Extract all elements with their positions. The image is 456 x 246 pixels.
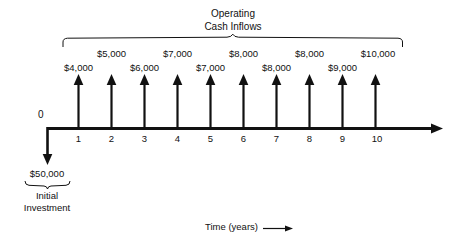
x-axis-label: Time (years) [205, 221, 258, 232]
initial-investment-brace [25, 181, 70, 189]
cash-inflow-arrow-year-8 [305, 74, 315, 128]
cash-inflow-arrow-year-1 [74, 74, 84, 128]
chart-title-line-2: Cash Inflows [204, 21, 261, 34]
operating-cash-inflows-brace [63, 34, 403, 47]
cash-inflow-arrows [74, 74, 381, 128]
time-direction-arrow [263, 226, 293, 232]
cash-inflow-label-year-1: $4,000 [64, 62, 93, 73]
initial-investment-caption-line-2: Investment [24, 202, 70, 214]
axis-tick-label-7: 7 [274, 133, 279, 144]
axis-tick-label-3: 3 [142, 133, 147, 144]
axis-tick-label-5: 5 [208, 133, 213, 144]
cash-inflow-label-year-10: $10,000 [361, 48, 395, 59]
initial-investment-amount: $50,000 [30, 168, 64, 179]
time-axis [47, 124, 443, 134]
cash-inflow-label-year-7: $8,000 [262, 62, 291, 73]
cash-inflow-label-year-8: $8,000 [295, 48, 324, 59]
initial-investment-arrow [43, 127, 53, 165]
cash-inflow-arrow-year-2 [107, 74, 117, 128]
cash-inflow-arrow-year-7 [272, 74, 282, 128]
cash-inflow-label-year-6: $8,000 [229, 48, 258, 59]
cash-inflow-arrow-year-9 [338, 74, 348, 128]
cash-inflow-arrow-year-5 [206, 74, 216, 128]
axis-tick-label-8: 8 [307, 133, 312, 144]
cash-inflow-label-year-2: $5,000 [97, 48, 126, 59]
cash-inflow-label-year-4: $7,000 [163, 48, 192, 59]
axis-tick-label-1: 1 [76, 133, 81, 144]
axis-tick-label-9: 9 [340, 133, 345, 144]
initial-investment-caption: Initial Investment [24, 190, 70, 213]
cash-inflow-arrow-year-10 [371, 74, 381, 128]
axis-tick-label-4: 4 [175, 133, 180, 144]
axis-tick-label-6: 6 [241, 133, 246, 144]
cash-inflow-arrow-year-4 [173, 74, 183, 128]
axis-tick-label-2: 2 [109, 133, 114, 144]
chart-title: Operating Cash Inflows [204, 8, 261, 33]
axis-tick-label-10: 10 [372, 133, 383, 144]
cash-inflow-label-year-9: $9,000 [328, 62, 357, 73]
cash-inflow-label-year-5: $7,000 [196, 62, 225, 73]
chart-title-line-1: Operating [204, 8, 261, 21]
axis-origin-label: 0 [38, 109, 44, 120]
cash-inflow-arrow-year-6 [239, 74, 249, 128]
cash-inflow-label-year-3: $6,000 [130, 62, 159, 73]
cash-flow-timeline-diagram: Operating Cash Inflows $4,000 $5,000 $6,… [0, 0, 456, 246]
cash-inflow-arrow-year-3 [140, 74, 150, 128]
year-tick-marks [79, 107, 376, 128]
initial-investment-caption-line-1: Initial [24, 190, 70, 202]
